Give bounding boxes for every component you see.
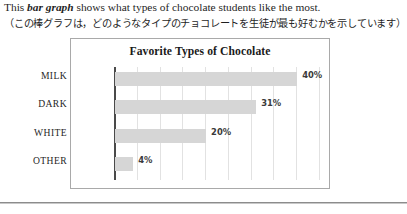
bar-row: 20% (114, 124, 319, 152)
intro-english-line: This bar graph shows what types of choco… (4, 0, 404, 15)
category-label-milk: MILK (0, 70, 67, 81)
bar-dark (115, 100, 256, 114)
category-label-slot: WHITE (0, 124, 67, 152)
category-label-slot: DARK (0, 95, 67, 123)
chart-title: Favorite Types of Chocolate (71, 45, 329, 58)
bar-row: 4% (114, 152, 319, 180)
bar-series: 40%31%20%4% (114, 67, 319, 180)
gridline (319, 67, 320, 180)
bar-row: 31% (114, 95, 319, 123)
bar-value-label-other: 4% (138, 155, 152, 165)
plot-area: 40%31%20%4% (114, 67, 319, 180)
intro-text-block: This bar graph shows what types of choco… (4, 0, 404, 32)
intro-english-after: shows what types of chocolate students l… (74, 1, 321, 13)
bar-row: 40% (114, 67, 319, 95)
intro-english-emphasis: bar graph (27, 1, 74, 13)
figure-box: Favorite Types of Chocolate MILKDARKWHIT… (70, 38, 330, 189)
intro-english-before: This (4, 1, 27, 13)
category-label-white: WHITE (0, 127, 67, 138)
bar-value-label-white: 20% (211, 127, 231, 137)
bar-value-label-dark: 31% (261, 98, 281, 108)
bar-value-label-milk: 40% (302, 70, 322, 80)
category-axis-labels: MILKDARKWHITEOTHER (0, 67, 67, 180)
bar-white (115, 129, 206, 143)
category-label-dark: DARK (0, 98, 67, 109)
category-label-slot: MILK (0, 67, 67, 95)
page-bottom-rule (0, 202, 407, 204)
bar-milk (115, 72, 297, 86)
category-label-slot: OTHER (0, 152, 67, 180)
bar-other (115, 157, 133, 171)
intro-japanese-line: （この棒グラフは，どのようなタイプのチョコレートを生徒が最も好むかを示しています… (4, 16, 404, 32)
category-label-other: OTHER (0, 155, 67, 166)
